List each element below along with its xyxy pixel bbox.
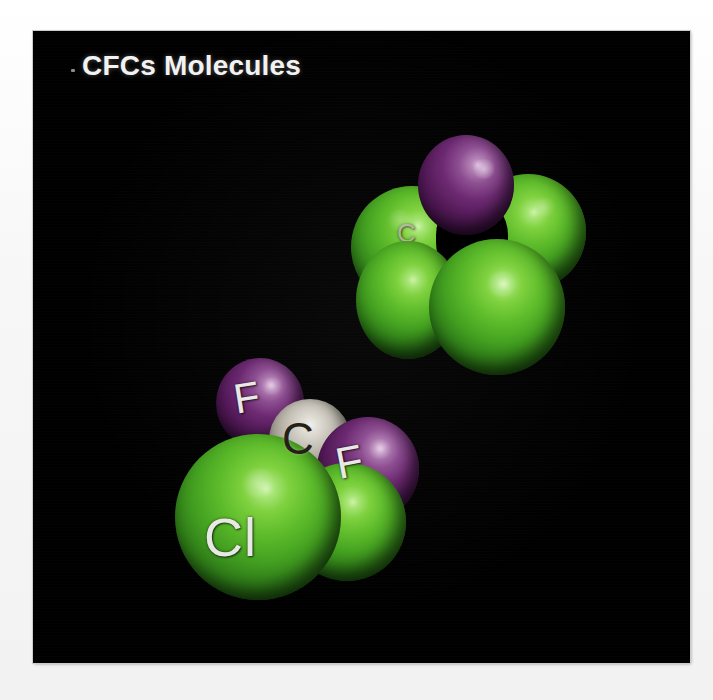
figure-panel: CFCs Molecules C — [33, 31, 690, 663]
atom-chlorine-lower-front — [175, 434, 341, 600]
title-bullet-artifact — [71, 69, 75, 72]
page-title: CFCs Molecules — [82, 50, 301, 82]
page-background: CFCs Molecules C — [0, 0, 713, 700]
lower-molecule-model: F C F Cl — [33, 31, 690, 663]
